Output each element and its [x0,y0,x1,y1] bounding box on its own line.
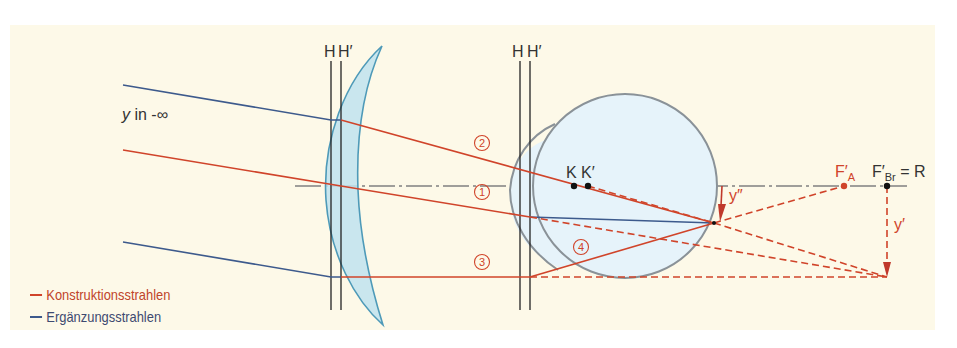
ray-number-3: 3 [479,256,485,268]
legend: Konstruktionsstrahlen Ergänzungsstrahlen [30,284,170,328]
image-point [712,221,716,225]
focal-point-FA [841,183,847,189]
lens-H-label: H [324,43,336,60]
legend-item-supplementary-rays: Ergänzungsstrahlen [30,306,170,328]
FA-label: F′A [835,163,856,183]
lens-H-prime-label: H′ [338,43,353,60]
eye-H-prime-label: H′ [527,43,542,60]
legend-swatch-red [30,294,42,296]
image-arrow-y-prime [883,262,891,277]
legend-item-construction-rays: Konstruktionsstrahlen [30,284,170,306]
image-y-prime-label: y′ [894,216,905,233]
eye [510,94,717,278]
K-label: K [566,164,577,181]
object-label: y in -∞ [121,106,168,123]
K-prime-label: K′ [581,164,595,181]
ray-number-2: 2 [479,137,485,149]
legend-label: Konstruktionsstrahlen [46,284,170,306]
FBr-label: F′Br = R [872,163,926,183]
focal-point-FBr [884,183,890,189]
image-y-double-prime-label: y″ [729,187,743,204]
eye-H-label: H [512,43,524,60]
nodal-point-K-prime [585,183,591,189]
legend-label: Ergänzungsstrahlen [46,306,161,328]
ray-number-4: 4 [578,241,584,253]
legend-swatch-blue [30,316,42,318]
nodal-point-K [571,183,577,189]
ray-number-1: 1 [479,186,485,198]
